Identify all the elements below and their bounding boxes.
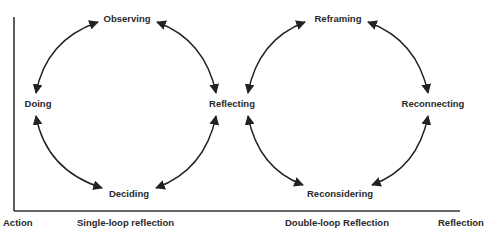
single-loop	[36, 22, 216, 188]
node-reconnecting: Reconnecting	[402, 98, 465, 109]
axis-label-action: Action	[3, 217, 33, 228]
arc-reconsidering-reflecting	[248, 116, 303, 185]
axis-label-single-loop: Single-loop reflection	[77, 217, 174, 228]
arc-reconnecting-reconsidering	[372, 116, 428, 185]
node-deciding: Deciding	[109, 188, 149, 199]
arc-reframing-reconnecting	[368, 22, 428, 93]
arc-observing-reflecting	[157, 22, 216, 93]
arc-deciding-doing	[36, 116, 102, 188]
node-doing: Doing	[25, 98, 52, 109]
node-observing: Observing	[104, 13, 151, 24]
node-reframing: Reframing	[315, 13, 362, 24]
node-reflecting: Reflecting	[209, 98, 255, 109]
axis-label-double-loop: Double-loop Reflection	[285, 217, 389, 228]
axis-label-reflection: Reflection	[438, 217, 484, 228]
arc-reflecting-reframing	[248, 22, 305, 93]
node-reconsidering: Reconsidering	[307, 188, 373, 199]
arc-doing-observing	[36, 22, 98, 93]
reflection-loops-diagram: Observing Doing Reflecting Deciding Refr…	[0, 0, 488, 233]
arc-reflecting-deciding	[156, 116, 216, 188]
